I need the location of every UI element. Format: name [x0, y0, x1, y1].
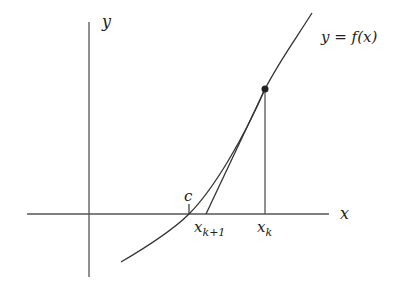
curve-point: [262, 86, 269, 93]
xk1-label: xk+1: [194, 218, 225, 239]
xk-label: xk: [257, 218, 272, 239]
function-curve: [121, 13, 312, 262]
root-label: c: [184, 187, 193, 205]
tangent-line: [206, 89, 265, 214]
curve-label: y = f(x): [320, 28, 377, 46]
newton-method-diagram: y x y = f(x) c xk+1 xk: [0, 0, 401, 291]
x-axis-label: x: [340, 204, 349, 223]
y-axis-label: y: [101, 12, 112, 31]
